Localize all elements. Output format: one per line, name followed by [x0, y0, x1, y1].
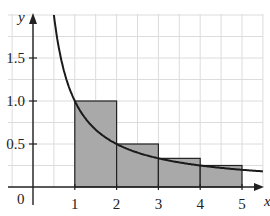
- y-axis-label: y: [16, 9, 25, 25]
- x-tick-label: 5: [238, 196, 246, 212]
- x-tick-label: 1: [71, 196, 79, 212]
- x-ticks: 12345: [71, 184, 246, 212]
- y-tick-label: 0.5: [6, 136, 25, 152]
- x-tick-label: 2: [113, 196, 121, 212]
- x-axis-label: x: [263, 193, 270, 209]
- x-tick-label: 4: [196, 196, 204, 212]
- y-tick-label: 1.5: [6, 50, 25, 66]
- x-tick-label: 3: [155, 196, 163, 212]
- bar-2: [117, 144, 159, 187]
- riemann-sum-chart: 0.51.01.5 12345 y x 0: [0, 0, 270, 216]
- y-tick-label: 1.0: [6, 93, 25, 109]
- origin-label: 0: [17, 191, 25, 207]
